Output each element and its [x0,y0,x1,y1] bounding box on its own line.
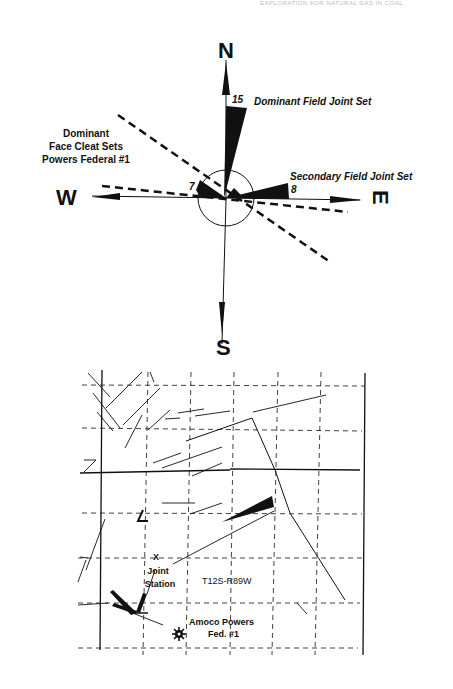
compass-east: E [368,190,393,205]
face-cleat-label-2: Face Cleat Sets [49,141,123,152]
lineament [186,418,252,441]
face-cleat-label-3: Powers Federal #1 [42,154,130,165]
west-petal [196,180,226,198]
north-arrow-icon [222,62,230,95]
west-arrow-icon [92,193,120,200]
well-label-1: Amoco Powers [189,617,254,627]
dominant-count: 15 [232,94,244,105]
secondary-field-label: Secondary Field Joint Set [290,171,413,182]
gas-well-icon [172,627,186,641]
section-line-east [363,373,365,655]
face-cleat-label-1: Dominant [63,128,110,139]
joint-station-label-1: Joint [147,566,169,576]
section-line-middle-w [80,470,230,473]
rose-diagram: N S W E 15 8 7 Dominant Field Joint Set … [42,38,413,360]
compass-south: S [216,335,231,360]
well-label-2: Fed. #1 [208,629,239,639]
east-arrow-icon [330,196,362,203]
joint-station-marker: X [153,552,159,562]
compass-west: W [56,185,77,210]
secondary-count: 8 [291,184,297,195]
map-joint-wedge [222,496,274,522]
face-cleat-dashed-nw-se [118,115,330,262]
dominant-petal [224,106,247,198]
grid-h [82,385,365,386]
dominant-field-label: Dominant Field Joint Set [254,96,372,107]
joint-station-label-2: Station [145,579,176,589]
fracture-traces [78,372,326,625]
township-range-label: T12S-R89W [202,576,252,586]
south-arrow-icon [219,302,225,335]
diagram-canvas: N S W E 15 8 7 Dominant Field Joint Set … [0,0,453,689]
section-line-middle-e [230,469,360,470]
grid-h [82,513,362,514]
l-mark [138,510,148,521]
map [78,370,365,655]
section-line-west [100,370,102,650]
west-count: 7 [189,181,195,192]
compass-north: N [218,38,234,63]
